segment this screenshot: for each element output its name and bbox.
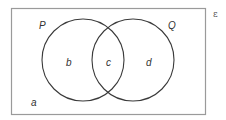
set-p-label: P xyxy=(39,20,46,31)
set-q-circle xyxy=(92,19,174,101)
region-intersection-label: c xyxy=(106,57,111,68)
universal-set-symbol: ε xyxy=(213,9,218,19)
venn-diagram: ε P Q b c d a xyxy=(0,0,226,120)
region-q-only-label: d xyxy=(146,57,152,68)
region-p-only-label: b xyxy=(66,57,72,68)
set-p-circle xyxy=(42,19,124,101)
region-outside-label: a xyxy=(31,97,37,108)
set-q-label: Q xyxy=(168,20,176,31)
